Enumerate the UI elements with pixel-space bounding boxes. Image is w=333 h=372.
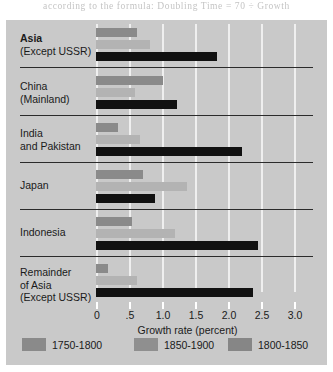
category-label-line: India bbox=[20, 127, 96, 140]
category-label: Indonesia bbox=[20, 226, 96, 239]
x-tick bbox=[228, 302, 230, 309]
bar-group: Japan bbox=[6, 166, 327, 213]
legend-swatch-1750-1800 bbox=[22, 338, 46, 351]
legend-label: 1750-1800 bbox=[52, 339, 102, 351]
legend-item: 1850-1900 bbox=[134, 338, 214, 351]
group-separator bbox=[20, 67, 313, 68]
category-label: China(Mainland) bbox=[20, 80, 96, 105]
category-label-line: (Mainland) bbox=[20, 93, 96, 106]
category-label-line: Remainder bbox=[20, 266, 96, 279]
category-label-line: and Pakistan bbox=[20, 140, 96, 153]
category-label-line: of Asia bbox=[20, 279, 96, 292]
x-tick-label: 1.5 bbox=[189, 309, 204, 321]
legend-swatch-1850-1900 bbox=[134, 338, 158, 351]
legend-label: 1850-1900 bbox=[164, 339, 214, 351]
category-label: Remainderof Asia(Except USSR) bbox=[20, 266, 96, 304]
category-label-line: Asia bbox=[20, 32, 96, 45]
x-tick-label: 2.0 bbox=[222, 309, 237, 321]
bar-group: Remainderof Asia(Except USSR) bbox=[6, 260, 327, 307]
bar-1800-1850-5 bbox=[96, 288, 253, 297]
x-tick bbox=[162, 302, 164, 309]
x-axis-title: Growth rate (percent) bbox=[6, 324, 327, 336]
bar-1850-1900-0 bbox=[96, 40, 150, 49]
bar-1850-1900-2 bbox=[96, 135, 140, 144]
x-tick bbox=[96, 302, 98, 309]
category-label: Japan bbox=[20, 179, 96, 192]
bar-1800-1850-1 bbox=[96, 100, 177, 109]
x-tick bbox=[129, 302, 131, 309]
group-bars bbox=[96, 166, 327, 213]
bar-group: Indiaand Pakistan bbox=[6, 119, 327, 166]
bar-group: Indonesia bbox=[6, 213, 327, 260]
chart-figure: Asia(Except USSR)China(Mainland)Indiaand… bbox=[6, 20, 327, 365]
category-label-line: Indonesia bbox=[20, 226, 96, 239]
x-tick-label: 0 bbox=[94, 309, 100, 321]
group-bars bbox=[96, 213, 327, 260]
category-label-line: China bbox=[20, 80, 96, 93]
plot-area: Asia(Except USSR)China(Mainland)Indiaand… bbox=[6, 20, 327, 302]
group-bars bbox=[96, 260, 327, 307]
x-tick-label: .5 bbox=[126, 309, 135, 321]
x-axis: 0.51.01.52.02.53.0 Growth rate (percent) bbox=[6, 302, 327, 336]
group-separator bbox=[20, 115, 313, 116]
group-separator bbox=[20, 162, 313, 163]
x-tick bbox=[294, 302, 296, 309]
category-label: Indiaand Pakistan bbox=[20, 127, 96, 152]
legend-swatch-1800-1850 bbox=[228, 338, 252, 351]
bar-1800-1850-0 bbox=[96, 52, 217, 61]
category-label-line: Japan bbox=[20, 179, 96, 192]
bar-1850-1900-3 bbox=[96, 182, 187, 191]
x-tick bbox=[195, 302, 197, 309]
bar-1750-1800-0 bbox=[96, 28, 137, 37]
bar-1750-1800-1 bbox=[96, 76, 163, 85]
chart-legend: 1750-18001850-19001800-1850 bbox=[6, 338, 327, 362]
bar-1800-1850-3 bbox=[96, 194, 155, 203]
bar-1850-1900-5 bbox=[96, 276, 137, 285]
group-bars bbox=[96, 24, 327, 71]
bar-1750-1800-2 bbox=[96, 123, 118, 132]
legend-label: 1800-1850 bbox=[258, 339, 308, 351]
x-tick-label: 2.5 bbox=[255, 309, 270, 321]
bar-1800-1850-4 bbox=[96, 241, 258, 250]
bar-1800-1850-2 bbox=[96, 147, 242, 156]
bar-group: China(Mainland) bbox=[6, 72, 327, 119]
group-separator bbox=[20, 209, 313, 210]
bar-group: Asia(Except USSR) bbox=[6, 24, 327, 71]
bar-1850-1900-1 bbox=[96, 88, 135, 97]
category-label-line: (Except USSR) bbox=[20, 45, 96, 58]
x-tick-label: 3.0 bbox=[288, 309, 303, 321]
bar-1750-1800-3 bbox=[96, 170, 143, 179]
group-separator bbox=[20, 256, 313, 257]
scanned-body-text: according to the formula: Doubling Time … bbox=[0, 0, 333, 14]
x-tick bbox=[261, 302, 263, 309]
group-bars bbox=[96, 119, 327, 166]
bar-1850-1900-4 bbox=[96, 229, 175, 238]
group-bars bbox=[96, 72, 327, 119]
legend-item: 1800-1850 bbox=[228, 338, 308, 351]
x-tick-label: 1.0 bbox=[156, 309, 171, 321]
bar-1750-1800-5 bbox=[96, 264, 108, 273]
legend-item: 1750-1800 bbox=[22, 338, 102, 351]
bar-1750-1800-4 bbox=[96, 217, 132, 226]
category-label: Asia(Except USSR) bbox=[20, 32, 96, 57]
